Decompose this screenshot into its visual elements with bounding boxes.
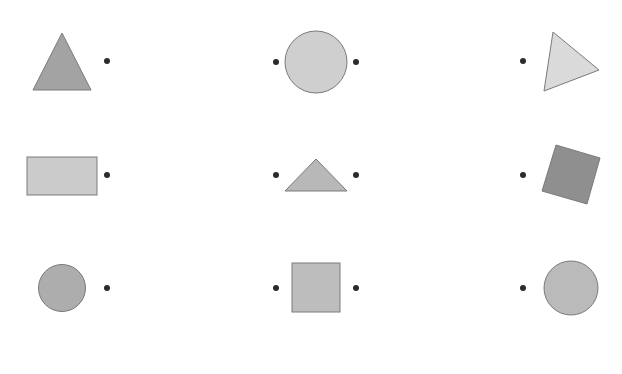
triangle-shape <box>285 159 347 191</box>
dot-marker <box>273 172 279 178</box>
grid-cell-r1-c1 <box>33 33 110 90</box>
dot-marker <box>353 285 359 291</box>
shape-canvas <box>0 0 622 374</box>
grid-cell-r3-c3 <box>520 261 598 315</box>
dot-marker <box>104 285 110 291</box>
shape-grid-diagram <box>0 0 622 374</box>
dot-marker <box>353 172 359 178</box>
dot-marker <box>520 58 526 64</box>
dot-marker <box>520 172 526 178</box>
rotated-square-shape <box>542 145 600 204</box>
square-shape <box>292 263 340 312</box>
dot-marker <box>104 58 110 64</box>
triangle-shape <box>33 33 91 90</box>
circle-shape <box>285 31 347 93</box>
dot-marker <box>273 59 279 65</box>
rectangle-shape <box>27 157 97 195</box>
grid-cell-r3-c2 <box>273 263 359 312</box>
grid-cell-r1-c3 <box>520 32 599 91</box>
circle-shape <box>39 265 86 312</box>
dot-marker <box>104 172 110 178</box>
grid-cell-r3-c1 <box>39 265 111 312</box>
grid-cell-r2-c1 <box>27 157 110 195</box>
grid-cell-r1-c2 <box>273 31 359 93</box>
triangle-shape <box>544 32 599 91</box>
grid-cell-r2-c3 <box>520 145 600 204</box>
dot-marker <box>353 59 359 65</box>
grid-cell-r2-c2 <box>273 159 359 191</box>
circle-shape <box>544 261 598 315</box>
dot-marker <box>273 285 279 291</box>
dot-marker <box>520 285 526 291</box>
